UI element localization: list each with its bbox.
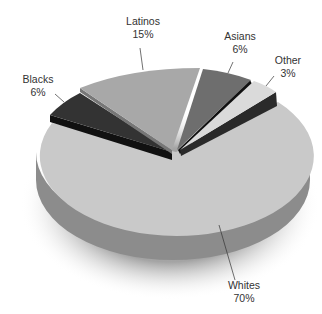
leader-latinos [140,48,143,70]
leader-asians [228,62,233,73]
label-whites: Whites 70% [224,279,264,305]
label-latinos: Latinos 15% [118,15,168,41]
label-other: Other 3% [270,54,306,80]
label-blacks: Blacks 6% [18,73,58,99]
label-asians: Asians 6% [220,30,260,56]
pie-chart [0,0,322,314]
